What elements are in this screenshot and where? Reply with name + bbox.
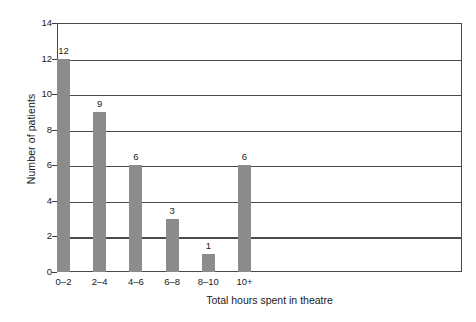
y-tick-label: 14 xyxy=(24,18,52,28)
y-tick-label: 0 xyxy=(24,267,52,277)
gridline xyxy=(58,237,461,238)
y-tick-mark xyxy=(52,59,57,60)
y-tick-mark xyxy=(52,23,57,24)
y-tick-mark xyxy=(52,272,57,273)
x-tick-label: 10+ xyxy=(222,277,268,287)
y-tick-label: 2 xyxy=(24,232,52,242)
y-tick-mark xyxy=(52,201,57,202)
y-tick-label: 8 xyxy=(24,125,52,135)
gridline xyxy=(58,166,461,167)
figure-caption-clipped xyxy=(0,315,476,322)
y-tick-mark xyxy=(52,165,57,166)
y-tick-mark xyxy=(52,236,57,237)
gridline xyxy=(58,60,461,61)
x-axis-tick-labels: 0–22–44–66–88–1010+ xyxy=(57,277,462,291)
y-axis-tick-labels: 02468101214 xyxy=(24,23,52,272)
plot-area xyxy=(57,23,462,272)
y-tick-mark xyxy=(52,130,57,131)
y-tick-label: 6 xyxy=(24,161,52,171)
y-tick-label: 12 xyxy=(24,54,52,64)
gridline xyxy=(58,95,461,96)
gridline xyxy=(58,202,461,203)
gridline xyxy=(58,131,461,132)
y-tick-mark xyxy=(52,94,57,95)
y-tick-label: 10 xyxy=(24,89,52,99)
y-tick-label: 4 xyxy=(24,196,52,206)
figure-caption-text xyxy=(4,315,6,322)
x-axis-title: Total hours spent in theatre xyxy=(57,294,476,306)
bar-chart-figure: Number of patients 02468101214 1296316 0… xyxy=(0,0,476,322)
